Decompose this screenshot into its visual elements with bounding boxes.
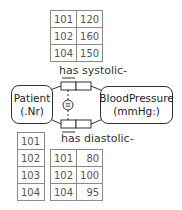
table-row: 102 xyxy=(18,150,45,167)
patient-entity[interactable]: Patient (.Nr) xyxy=(11,85,53,124)
blood-pressure-entity-name: BloodPressure xyxy=(99,92,173,105)
table-row: 101 120 xyxy=(51,11,103,28)
systolic-population-table: 101 120 102 160 104 150 xyxy=(50,10,103,62)
table-cell: 102 xyxy=(51,167,77,184)
table-cell: 102 xyxy=(18,150,45,167)
table-cell: 104 xyxy=(51,45,77,62)
table-cell: 102 xyxy=(51,28,77,45)
table-row: 102 100 xyxy=(51,167,103,184)
table-cell: 160 xyxy=(77,28,103,45)
table-cell: 120 xyxy=(77,11,103,28)
blood-pressure-entity-ref: (mmHg:) xyxy=(113,105,160,118)
table-row: 102 160 xyxy=(51,28,103,45)
table-row: 104 95 xyxy=(51,184,103,201)
table-cell: 150 xyxy=(77,45,103,62)
equality-constraint-icon[interactable] xyxy=(63,100,73,110)
table-row: 101 80 xyxy=(51,150,103,167)
table-row: 104 150 xyxy=(51,45,103,62)
table-row: 101 xyxy=(18,133,45,150)
blood-pressure-entity[interactable]: BloodPressure (mmHg:) xyxy=(100,86,173,124)
table-cell: 100 xyxy=(77,167,103,184)
table-cell: 95 xyxy=(77,184,103,201)
table-cell: 101 xyxy=(18,133,45,150)
table-cell: 104 xyxy=(51,184,77,201)
table-cell: 103 xyxy=(18,167,45,184)
diastolic-population-table: 101 80 102 100 104 95 xyxy=(50,149,103,201)
patient-population-table: 101 102 103 104 xyxy=(17,132,45,201)
table-row: 103 xyxy=(18,167,45,184)
systolic-role-box[interactable] xyxy=(61,82,91,90)
table-row: 104 xyxy=(18,184,45,201)
diastolic-role-box[interactable] xyxy=(61,120,91,128)
systolic-fact-reading: has systolic- xyxy=(59,64,127,77)
patient-entity-name: Patient xyxy=(14,92,51,105)
diastolic-fact-reading: has diastolic- xyxy=(61,132,134,145)
patient-entity-ref: (.Nr) xyxy=(20,105,44,118)
table-cell: 101 xyxy=(51,150,77,167)
table-cell: 104 xyxy=(18,184,45,201)
table-cell: 101 xyxy=(51,11,77,28)
table-cell: 80 xyxy=(77,150,103,167)
